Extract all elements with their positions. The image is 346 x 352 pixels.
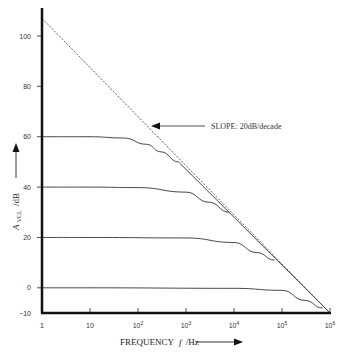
x-tick-label: 105: [277, 320, 288, 329]
y-tick-label: 40: [23, 184, 31, 191]
slope-label: SLOPE: 20dB/decade: [211, 122, 282, 131]
y-axis-subscript: VCL: [16, 210, 22, 222]
x-tick-label: 1: [40, 322, 44, 329]
closed-loop-curve: [42, 137, 179, 162]
arrow-up-icon: [13, 143, 20, 152]
plot-area: [42, 18, 330, 313]
x-axis-ticks: 110102103104105106: [40, 308, 335, 329]
y-tick-label: 0: [27, 284, 31, 291]
x-tick-label: 103: [181, 320, 192, 329]
y-axis-symbol: A: [11, 224, 21, 231]
x-tick-label: 102: [133, 320, 144, 329]
x-tick-label: 106: [325, 320, 336, 329]
y-axis-ticks: 100806040200−10: [19, 33, 42, 317]
bode-chart: 110102103104105106 100806040200−10 SLOPE…: [0, 0, 346, 352]
y-tick-label: 80: [23, 83, 31, 90]
y-tick-label: 60: [23, 133, 31, 140]
x-tick-label: 10: [86, 322, 94, 329]
arrow-right-icon: [234, 339, 243, 346]
y-axis-title: A VCL /dB: [11, 143, 23, 231]
open-loop-asymptote: [42, 18, 330, 313]
arrow-left-icon: [151, 123, 160, 130]
x-axis-title-text: FREQUENCY: [120, 337, 175, 347]
asymptote-solid: [179, 162, 330, 313]
closed-loop-curve: [42, 187, 229, 212]
closed-loop-curve: [42, 288, 323, 308]
axes: [41, 8, 331, 313]
y-tick-label: −10: [19, 310, 31, 317]
svg-text:FREQUENCY f /Hz: FREQUENCY f /Hz: [120, 337, 199, 347]
svg-text:A VCL /dB: A VCL /dB: [11, 193, 23, 231]
slope-annotation: SLOPE: 20dB/decade: [151, 122, 282, 131]
x-tick-label: 104: [229, 320, 240, 329]
y-tick-label: 100: [19, 33, 31, 40]
y-tick-label: 20: [23, 234, 31, 241]
x-axis-title: FREQUENCY f /Hz: [120, 337, 243, 347]
closed-loop-curve: [42, 237, 275, 260]
y-axis-unit: /dB: [11, 193, 21, 206]
x-axis-variable: f: [179, 337, 183, 347]
